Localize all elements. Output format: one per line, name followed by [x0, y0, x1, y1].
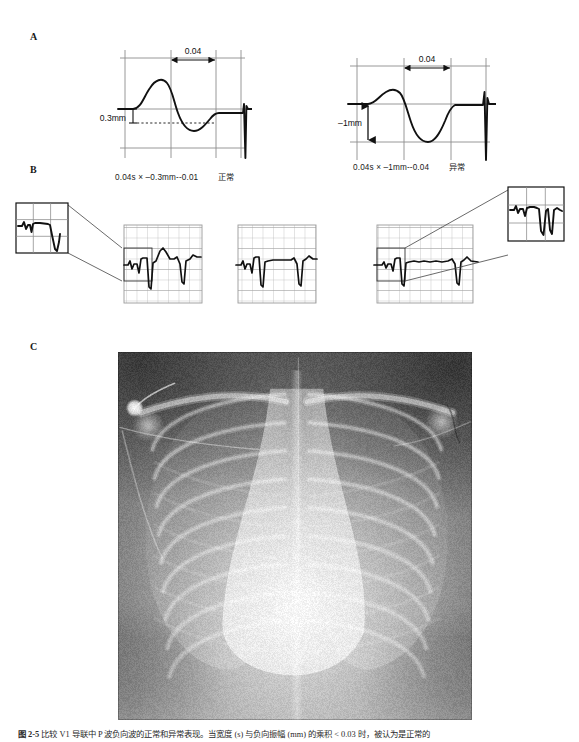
figure-caption: 图 2-5 比较 V1 导联中 P 波负向波的正常和异常表现。当宽度 (s) 与…	[18, 729, 570, 740]
panel-a-ptf-diagrams: 0.04 0.3mm	[0, 18, 579, 168]
normal-interval-label: 0.04	[185, 46, 202, 56]
abnormal-qrs-spike	[483, 92, 496, 160]
figure-root: A B C	[0, 0, 579, 742]
abnormal-diagram-grid	[350, 58, 496, 160]
abnormal-formula-text: 0.04s × –1mm--0.04	[353, 163, 429, 172]
panel-b-ecg-strips	[0, 185, 579, 310]
normal-amplitude-label: 0.3mm	[100, 113, 126, 123]
ptf-diagram-svg: 0.04 0.3mm	[0, 18, 579, 168]
abnormal-verdict: 异常	[449, 163, 465, 172]
chest-radiograph-canvas	[118, 352, 472, 720]
normal-formula-row: 0.04s × –0.3mm--0.01正常	[115, 170, 235, 182]
figure-caption-label: 图 2-5	[18, 730, 39, 739]
chest-radiograph	[118, 352, 472, 720]
figure-caption-text: 比较 V1 导联中 P 波负向波的正常和异常表现。当宽度 (s) 与负向振幅 (…	[41, 730, 429, 739]
normal-qrs-spike	[243, 104, 252, 158]
normal-formula-text: 0.04s × –0.3mm--0.01	[115, 173, 198, 182]
ecg-strips-svg	[0, 185, 579, 310]
normal-verdict: 正常	[218, 173, 234, 182]
abnormal-interval-label: 0.04	[419, 54, 436, 64]
panel-label-c: C	[30, 341, 37, 352]
ecg-strip-1	[124, 225, 202, 303]
ecg-inset-left	[16, 203, 122, 281]
normal-amplitude-annotation	[129, 109, 214, 123]
ecg-strip-3	[374, 225, 478, 303]
abnormal-amplitude-label: –1mm	[338, 118, 362, 128]
ecg-strip-2	[236, 225, 317, 303]
abnormal-formula-row: 0.04s × –1mm--0.04异常	[353, 160, 466, 172]
